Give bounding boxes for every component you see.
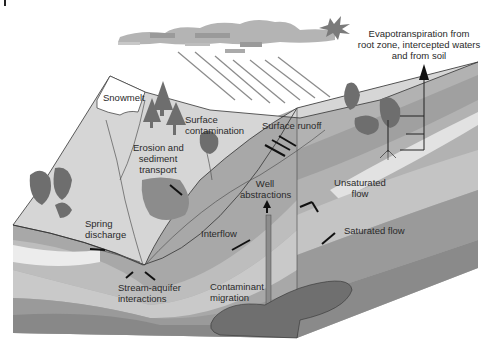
label-stream-aquifer-2: interactions <box>118 294 167 305</box>
label-erosion-2: sediment <box>133 154 183 165</box>
label-erosion-3: transport <box>133 165 183 176</box>
label-interflow: Interflow <box>201 229 237 240</box>
label-spring-2: discharge <box>85 230 126 241</box>
label-well-2: abstractions <box>240 190 290 201</box>
label-surface-contamination-2: contamination <box>185 126 244 137</box>
label-evapotranspiration-1: Evapotranspiration from <box>355 29 483 40</box>
label-unsaturated-1: Unsaturated <box>325 178 395 189</box>
label-erosion-1: Erosion and <box>133 143 183 154</box>
label-evapotranspiration-2: root zone, intercepted waters <box>355 40 483 51</box>
label-saturated-flow: Saturated flow <box>344 226 405 237</box>
label-contaminant-1: Contaminant <box>210 282 264 293</box>
label-snowmelt: Snowmelt <box>103 93 145 104</box>
label-evapotranspiration-3: and from soil <box>355 51 483 62</box>
label-unsaturated-2: flow <box>325 189 395 200</box>
label-contaminant-2: migration <box>210 293 249 304</box>
label-surface-contamination-1: Surface <box>185 115 218 126</box>
cloud-group <box>118 16 350 53</box>
label-spring-1: Spring <box>85 219 112 230</box>
label-surface-runoff: Surface runoff <box>262 121 322 132</box>
label-stream-aquifer-1: Stream-aquifer <box>118 283 181 294</box>
label-well-1: Well <box>240 179 290 190</box>
rain-lines <box>178 52 330 103</box>
